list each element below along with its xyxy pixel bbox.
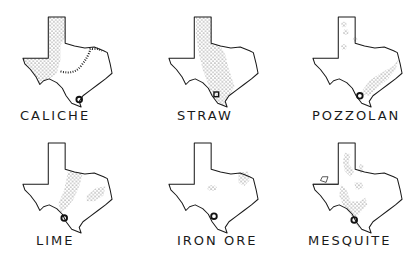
label-mesquite: MESQUITE [308,233,391,248]
texas-map-straw [166,17,261,107]
map-panel-iron-ore [166,143,261,233]
texas-map-lime [20,143,115,233]
map-panel-straw [166,17,261,107]
label-iron-ore: IRON ORE [177,233,257,248]
texas-map-pozzolan [310,17,405,107]
map-panel-pozzolan [310,17,405,107]
label-pozzolan: POZZOLAN [312,108,400,123]
texas-map-mesquite [310,143,405,233]
map-panel-caliche [20,17,115,107]
label-caliche: CALICHE [20,108,90,123]
map-panel-lime [20,143,115,233]
label-straw: STRAW [177,108,233,123]
label-lime: LIME [36,233,75,248]
location-marker [357,93,363,99]
map-panel-mesquite [310,143,405,233]
texas-map-iron-ore [166,143,261,233]
location-marker [76,97,82,103]
texas-map-caliche [20,17,115,107]
location-marker [211,213,217,219]
